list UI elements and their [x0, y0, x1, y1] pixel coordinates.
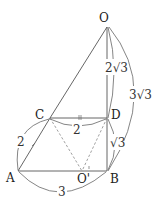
length-OD: 2√3	[105, 61, 128, 75]
label-A: A	[5, 171, 15, 185]
length-AB: 3	[58, 185, 66, 199]
segment-OC	[50, 27, 107, 118]
geometry-diagram: O C D A B O' 2√3 3√3 2 2 √3 3	[0, 0, 162, 219]
length-DB: √3	[110, 136, 125, 150]
length-AC: 2	[17, 135, 25, 149]
label-O: O	[99, 11, 109, 25]
dashed-DO-prime	[82, 118, 107, 171]
label-O-prime: O'	[77, 172, 90, 186]
label-D: D	[111, 108, 121, 122]
label-B: B	[110, 172, 119, 186]
length-CD: 2	[73, 123, 81, 137]
label-C: C	[35, 108, 44, 122]
length-OB: 3√3	[129, 88, 152, 102]
